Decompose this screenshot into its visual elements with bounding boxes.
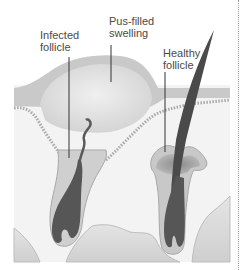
label-infected-follicle: Infected follicle	[40, 29, 79, 53]
label-healthy-line1: Healthy	[163, 47, 200, 59]
label-healthy-line2: follicle	[163, 59, 200, 71]
label-infected-line1: Infected	[40, 29, 79, 41]
label-pus-line2: swelling	[109, 27, 154, 39]
skin-cross-section-illustration	[0, 0, 245, 270]
label-pus-line1: Pus-filled	[109, 15, 154, 27]
label-healthy-follicle: Healthy follicle	[163, 47, 200, 71]
label-pus-filled-swelling: Pus-filled swelling	[109, 15, 154, 39]
dotted-divider	[238, 0, 239, 270]
label-infected-line2: follicle	[40, 41, 79, 53]
